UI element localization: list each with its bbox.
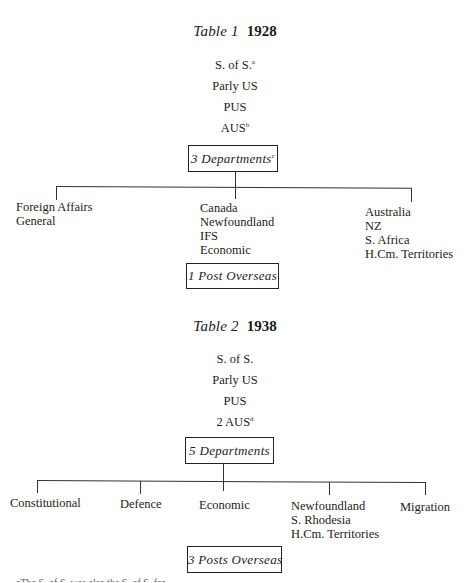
connector bbox=[37, 480, 38, 493]
table2-dept-col-5: Migration bbox=[400, 500, 450, 514]
table2-year: 1938 bbox=[247, 318, 277, 334]
connector bbox=[37, 480, 426, 483]
table1-official-pus: PUS bbox=[0, 100, 470, 115]
table2-official-parly-us: Parly US bbox=[0, 373, 470, 388]
footnote-marker: b bbox=[246, 121, 250, 129]
table1-label: Table 1 bbox=[193, 23, 238, 39]
connector bbox=[425, 482, 426, 495]
table1-departments-box: 3 Departmentsc bbox=[188, 145, 278, 172]
table2-dept-col-4: Newfoundland S. Rhodesia H.Cm. Territori… bbox=[291, 499, 379, 541]
connector bbox=[329, 482, 330, 495]
table1-official-aus: AUSb bbox=[0, 121, 470, 136]
footnote-marker: a bbox=[252, 58, 255, 66]
table2-official-pus: PUS bbox=[0, 394, 470, 409]
connector bbox=[56, 186, 57, 200]
footnote-marker: c bbox=[272, 152, 275, 160]
table1-dept-col-1: Foreign Affairs General bbox=[16, 200, 93, 228]
table2-dept-col-1: Constitutional bbox=[10, 496, 81, 510]
table2-official-aus: 2 AUSd bbox=[0, 415, 470, 430]
connector bbox=[140, 481, 141, 494]
table1-year: 1928 bbox=[247, 23, 277, 39]
table2-official-sos: S. of S. bbox=[0, 352, 470, 367]
table2-departments-box: 5 Departments bbox=[185, 437, 274, 464]
connector bbox=[223, 464, 224, 491]
footnote: aThe S. of S. was also the S. of S. for.… bbox=[16, 577, 172, 583]
table1-official-sos: S. of S.a bbox=[0, 58, 470, 73]
table2-title: Table 21938 bbox=[0, 318, 470, 335]
table1-posts-box: 1 Post Overseas bbox=[186, 263, 279, 289]
table2-posts-box: 3 Posts Overseas bbox=[187, 546, 282, 573]
table1-dept-col-3: Australia NZ S. Africa H.Cm. Territories bbox=[365, 205, 453, 261]
table2-label: Table 2 bbox=[193, 318, 238, 334]
table1-official-parly-us: Parly US bbox=[0, 79, 470, 94]
connector bbox=[411, 188, 412, 202]
table1-dept-col-2: Canada Newfoundland IFS Economic bbox=[200, 201, 274, 257]
connector bbox=[235, 172, 236, 199]
connector bbox=[56, 186, 412, 189]
table2-dept-col-2: Defence bbox=[120, 497, 162, 511]
footnote-marker: d bbox=[250, 415, 254, 423]
table1-title: Table 11928 bbox=[0, 23, 470, 40]
table2-dept-col-3: Economic bbox=[199, 498, 250, 512]
